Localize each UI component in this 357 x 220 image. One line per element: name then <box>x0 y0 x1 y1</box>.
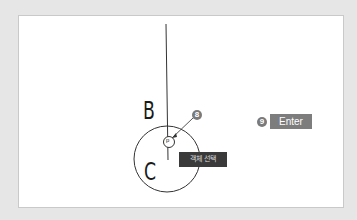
object-select-tooltip: 객체 선택 <box>179 152 227 167</box>
label-p: p <box>166 137 169 143</box>
drawing-canvas <box>0 0 357 220</box>
label-b: B <box>143 99 155 123</box>
step-badge-9: 9 <box>257 117 267 127</box>
label-c: C <box>144 160 156 184</box>
enter-key: Enter <box>270 114 312 129</box>
step-badge-8: 8 <box>192 110 202 120</box>
